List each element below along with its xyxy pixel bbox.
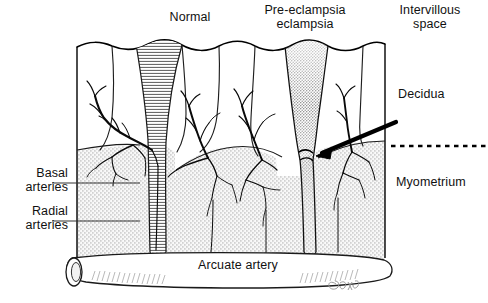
label-basal-arteries: Basal arteries	[6, 167, 68, 194]
label-normal: Normal	[155, 11, 225, 25]
label-radial-arteries: Radial arteries	[6, 205, 68, 232]
label-decidua: Decidua	[398, 88, 484, 102]
label-preeclampsia: Pre-eclampsia eclampsia	[250, 4, 360, 31]
label-arcuate-artery: Arcuate artery	[182, 259, 294, 273]
myometrium-region	[77, 141, 385, 262]
label-myometrium: Myometrium	[396, 176, 486, 190]
label-intervillous-space: Intervillous space	[378, 4, 482, 31]
